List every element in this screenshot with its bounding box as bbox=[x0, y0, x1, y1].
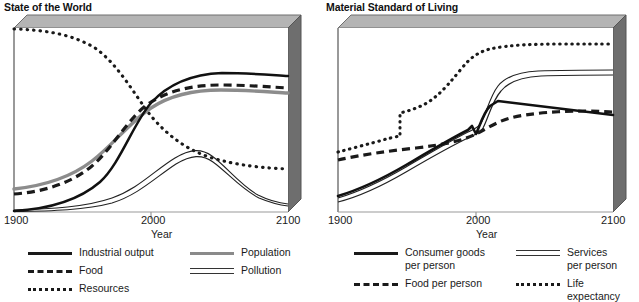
legend-column-2: Population Pollution bbox=[190, 246, 291, 282]
legend-label: Consumer goods per person bbox=[405, 246, 485, 271]
x-tick-label-2100: 2100 bbox=[276, 214, 300, 226]
legend-item-food: Food bbox=[28, 264, 154, 279]
legend-item-industrial-output: Industrial output bbox=[28, 246, 154, 261]
legend-label: Industrial output bbox=[79, 246, 154, 259]
panel-state-of-the-world: State of the World bbox=[0, 0, 319, 295]
legend-label: Food bbox=[79, 264, 103, 277]
x-axis-label: Year bbox=[476, 228, 497, 240]
legend-key-double-line-icon bbox=[190, 265, 234, 278]
plot-back-panel bbox=[338, 28, 613, 212]
x-tick-label-2000: 2000 bbox=[141, 214, 165, 226]
legend-item-food-per-person: Food per person bbox=[354, 277, 485, 292]
legend-left: Industrial output Food Resources Populat… bbox=[0, 246, 319, 295]
legend-label: Pollution bbox=[241, 264, 281, 277]
legend-label: Services per person bbox=[567, 246, 617, 271]
legend-item-services-per-person: Services per person bbox=[516, 246, 639, 274]
legend-item-pollution: Pollution bbox=[190, 264, 291, 279]
legend-key-solid-black-icon bbox=[354, 247, 398, 260]
x-tick-label-1900: 1900 bbox=[4, 214, 28, 226]
legend-key-dotted-black-icon bbox=[28, 283, 72, 296]
legend-label: Population bbox=[241, 246, 291, 259]
legend-key-dotted-black-icon bbox=[516, 278, 560, 291]
panel-material-standard-of-living: Material Standard of Living 1900 2000 21… bbox=[320, 0, 639, 295]
legend-item-life-expectancy: Life expectancy bbox=[516, 277, 639, 292]
box-right-face bbox=[288, 15, 301, 212]
box-top-face bbox=[338, 15, 626, 28]
legend-column-1: Consumer goods per person Food per perso… bbox=[354, 246, 485, 295]
legend-label: Resources bbox=[79, 282, 129, 295]
legend-item-population: Population bbox=[190, 246, 291, 261]
x-tick-label-2100: 2100 bbox=[601, 214, 625, 226]
legend-label: Life expectancy bbox=[567, 277, 639, 302]
x-tick-label-1900: 1900 bbox=[328, 214, 352, 226]
legend-key-solid-black-icon bbox=[28, 247, 72, 260]
legend-key-dashed-black-icon bbox=[28, 265, 72, 278]
x-axis-label: Year bbox=[151, 228, 172, 240]
legend-label: Food per person bbox=[405, 277, 482, 290]
legend-key-solid-gray-icon bbox=[190, 247, 234, 260]
legend-key-dashed-black-icon bbox=[354, 278, 398, 291]
x-tick-label-2000: 2000 bbox=[466, 214, 490, 226]
legend-item-resources: Resources bbox=[28, 282, 154, 297]
chart-plot-left bbox=[0, 12, 319, 227]
box-top-face bbox=[14, 15, 301, 28]
legend-column-1: Industrial output Food Resources bbox=[28, 246, 154, 300]
legend-key-double-line-icon bbox=[516, 247, 560, 260]
box-right-face bbox=[613, 15, 626, 212]
chart-plot-right bbox=[320, 12, 639, 227]
legend-item-consumer-goods: Consumer goods per person bbox=[354, 246, 485, 274]
legend-right: Consumer goods per person Food per perso… bbox=[320, 246, 639, 295]
legend-column-2: Services per person Life expectancy bbox=[516, 246, 639, 295]
